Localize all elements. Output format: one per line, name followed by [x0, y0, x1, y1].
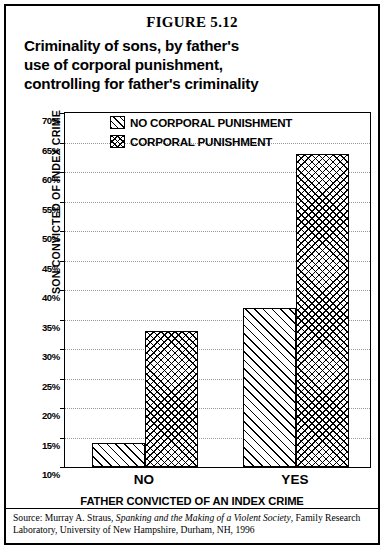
y-axis-tick-mark	[60, 379, 65, 380]
chart-title: Criminality of sons, by father's use of …	[24, 36, 374, 93]
y-axis-tick-mark	[60, 202, 65, 203]
legend-item-corporal-punishment: CORPORAL PUNISHMENT	[110, 133, 292, 150]
y-axis-tick-mark	[60, 231, 65, 232]
y-axis-tick-label: 50%	[28, 233, 60, 244]
chart-title-line-1: Criminality of sons, by father's	[24, 36, 374, 55]
legend-label-corporal-punishment: CORPORAL PUNISHMENT	[130, 135, 272, 148]
y-axis-tick-label: 55%	[28, 203, 60, 214]
y-axis-tick-label: 40%	[28, 292, 60, 303]
chart-legend: NO CORPORAL PUNISHMENT CORPORAL PUNISHME…	[110, 114, 292, 152]
source-work-title: Spanking and the Making of a Violent Soc…	[116, 512, 291, 523]
legend-item-no-corporal-punishment: NO CORPORAL PUNISHMENT	[110, 114, 292, 131]
chart-title-line-3: controlling for father's criminality	[24, 74, 374, 93]
y-axis-tick-label: 20%	[28, 410, 60, 421]
legend-swatch-hatch-icon	[110, 116, 125, 129]
y-axis-tick-label: 30%	[28, 351, 60, 362]
y-axis-tick-label: 35%	[28, 321, 60, 332]
x-axis-title: FATHER CONVICTED OF AN INDEX CRIME	[6, 495, 378, 507]
y-axis-tick-label: 60%	[28, 174, 60, 185]
chart-title-line-2: use of corporal punishment,	[24, 55, 374, 74]
y-axis-tick-mark	[60, 408, 65, 409]
y-axis-tick-label: 15%	[28, 439, 60, 450]
y-axis-tick-mark	[60, 143, 65, 144]
source-divider	[6, 508, 378, 509]
legend-swatch-crosshatch-icon	[110, 135, 125, 148]
y-axis-tick-label: 45%	[28, 262, 60, 273]
legend-label-no-corporal-punishment: NO CORPORAL PUNISHMENT	[130, 116, 292, 129]
y-axis-tick-mark	[60, 320, 65, 321]
x-axis-category-label: YES	[242, 472, 348, 487]
y-axis-tick-mark	[60, 467, 65, 468]
bar	[296, 154, 349, 467]
y-axis-tick-label: 70%	[28, 115, 60, 126]
y-axis-tick-mark	[60, 113, 65, 114]
figure-frame: FIGURE 5.12 Criminality of sons, by fath…	[4, 4, 380, 545]
y-axis-tick-mark	[60, 349, 65, 350]
source-note: Source: Murray A. Straus, Spanking and t…	[13, 512, 373, 537]
y-axis-tick-label: 10%	[28, 469, 60, 480]
y-axis-tick-labels: 70%65%60%55%50%45%40%35%30%25%20%15%10%	[24, 116, 60, 470]
y-axis-tick-label: 25%	[28, 380, 60, 391]
bar	[145, 331, 198, 467]
y-axis-tick-mark	[60, 261, 65, 262]
bar	[243, 308, 296, 467]
figure-number-label: FIGURE 5.12	[6, 14, 378, 31]
y-axis-tick-mark	[60, 290, 65, 291]
y-axis-tick-mark	[60, 172, 65, 173]
bar	[92, 443, 145, 467]
y-axis-tick-mark	[60, 438, 65, 439]
plot-area	[64, 112, 371, 468]
source-prefix: Source: Murray A. Straus,	[13, 512, 116, 523]
y-axis-tick-label: 65%	[28, 144, 60, 155]
x-axis-category-label: NO	[91, 472, 197, 487]
